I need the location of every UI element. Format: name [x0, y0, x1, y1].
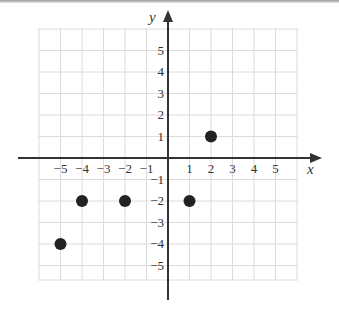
- y-tick-label: 4: [158, 64, 165, 79]
- data-point: [119, 195, 131, 207]
- data-point: [184, 195, 196, 207]
- data-point: [205, 131, 217, 143]
- axes: [18, 10, 322, 300]
- x-axis-label: x: [306, 161, 314, 177]
- x-tick-labels: −5−4−3−2−112345: [54, 161, 279, 176]
- coordinate-plane: −5−4−3−2−112345 54321−1−2−3−4−5 x y: [0, 0, 339, 310]
- x-tick-label: 5: [272, 161, 279, 176]
- x-tick-label: 2: [208, 161, 215, 176]
- x-tick-label: −4: [75, 161, 89, 176]
- y-tick-label: −3: [150, 215, 164, 230]
- y-tick-label: −5: [150, 258, 164, 273]
- x-tick-label: −3: [97, 161, 111, 176]
- x-tick-label: 4: [251, 161, 258, 176]
- data-point: [76, 195, 88, 207]
- y-tick-label: −4: [150, 236, 164, 251]
- x-tick-label: −2: [118, 161, 132, 176]
- y-axis-arrow-icon: [163, 10, 173, 22]
- x-tick-label: −5: [54, 161, 68, 176]
- data-points: [55, 131, 218, 251]
- y-tick-label: 2: [158, 107, 165, 122]
- y-axis-label: y: [147, 9, 156, 25]
- y-tick-label: −1: [150, 172, 164, 187]
- y-tick-label: 5: [158, 43, 165, 58]
- x-tick-label: 1: [186, 161, 193, 176]
- y-tick-label: 1: [158, 129, 165, 144]
- y-tick-label: −2: [150, 193, 164, 208]
- x-tick-label: 3: [229, 161, 236, 176]
- y-tick-label: 3: [158, 86, 165, 101]
- data-point: [55, 238, 67, 250]
